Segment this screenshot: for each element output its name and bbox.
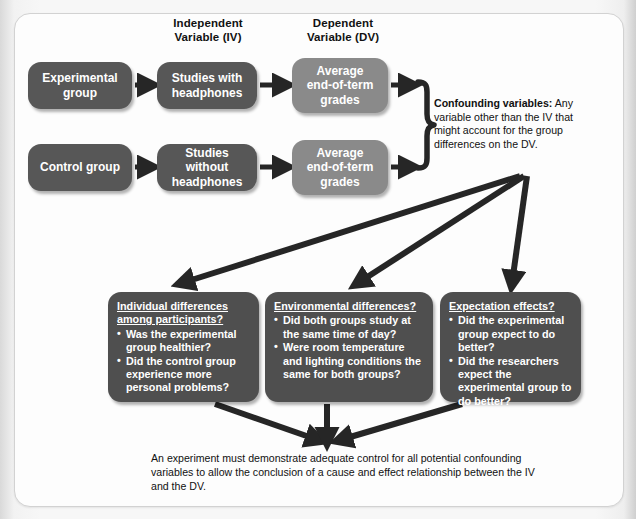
box-iv-control-label: Studies withoutheadphones bbox=[163, 146, 251, 190]
figure-canvas: Independent Variable (IV) Dependent Vari… bbox=[0, 0, 636, 519]
question-box-individual-differences: Individual differences among participant… bbox=[108, 292, 259, 402]
list-item: Did both groups study at the same time o… bbox=[274, 314, 425, 341]
box-iv-control: Studies withoutheadphones bbox=[157, 144, 257, 191]
column-header-dv: Dependent Variable (DV) bbox=[283, 16, 403, 44]
list-item: Were room temperature and lighting condi… bbox=[274, 341, 425, 381]
arrow-box1-to-caption bbox=[215, 404, 318, 440]
question-box-heading: Individual differences among participant… bbox=[117, 300, 251, 327]
arrow-box3-to-caption bbox=[340, 404, 462, 440]
grouping-brace bbox=[418, 82, 434, 168]
box-experimental-group: Experimentalgroup bbox=[28, 62, 132, 109]
box-dv-experimental-label: Averageend-of-termgrades bbox=[307, 64, 374, 108]
box-control-group-label: Control group bbox=[40, 160, 120, 175]
question-box-environmental-differences: Environmental differences? Did both grou… bbox=[265, 292, 433, 402]
converge-arrow-group bbox=[215, 404, 462, 440]
list-item: Did the experimental group expect to do … bbox=[449, 314, 573, 354]
column-header-iv: Independent Variable (IV) bbox=[148, 16, 268, 44]
figure-caption: An experiment must demonstrate adequate … bbox=[151, 451, 539, 493]
question-box-heading: Environmental differences? bbox=[274, 300, 425, 313]
list-item: Did the researchers expect the experimen… bbox=[449, 355, 573, 409]
question-box-expectation-effects: Expectation effects? Did the experimenta… bbox=[440, 292, 581, 402]
box-experimental-group-label: Experimentalgroup bbox=[42, 71, 117, 100]
column-header-dv-line1: Dependent bbox=[283, 16, 403, 30]
column-header-iv-line1: Independent bbox=[148, 16, 268, 30]
question-box-list: Was the experimental group healthier? Di… bbox=[117, 328, 251, 395]
list-item: Did the control group experience more pe… bbox=[117, 355, 251, 395]
question-box-list: Did the experimental group expect to do … bbox=[449, 314, 573, 408]
list-item: Was the experimental group healthier? bbox=[117, 328, 251, 355]
arrow-confound-to-box3 bbox=[512, 176, 527, 283]
confounding-variables-lead: Confounding variables: bbox=[434, 97, 552, 109]
box-iv-experimental: Studies withheadphones bbox=[157, 62, 257, 109]
box-dv-experimental: Averageend-of-termgrades bbox=[292, 58, 388, 113]
box-dv-control: Averageend-of-termgrades bbox=[292, 140, 388, 195]
question-box-heading: Expectation effects? bbox=[449, 300, 573, 313]
box-iv-experimental-label: Studies withheadphones bbox=[172, 71, 243, 100]
box-control-group: Control group bbox=[28, 144, 132, 191]
box-dv-control-label: Averageend-of-termgrades bbox=[307, 146, 374, 190]
column-header-iv-line2: Variable (IV) bbox=[148, 30, 268, 44]
column-header-dv-line2: Variable (DV) bbox=[283, 30, 403, 44]
question-box-list: Did both groups study at the same time o… bbox=[274, 314, 425, 381]
confounding-variables-note: Confounding variables: Any variable othe… bbox=[434, 97, 596, 151]
